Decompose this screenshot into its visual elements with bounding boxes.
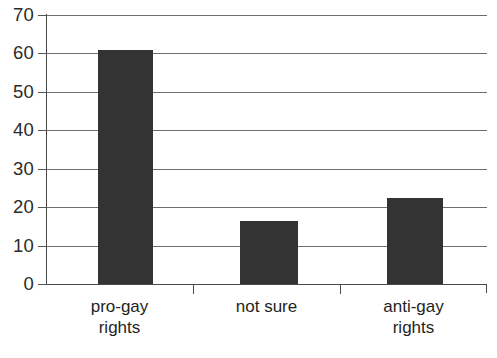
x-category-label-line-1: not sure <box>193 296 340 317</box>
x-category-label-line-2: rights <box>46 317 193 338</box>
x-category-label-line-2: rights <box>340 317 487 338</box>
y-tick-label-30: 30 <box>0 160 34 179</box>
y-tick-label-10: 10 <box>0 237 34 256</box>
y-tick-mark-0 <box>38 284 47 285</box>
y-tick-mark-50 <box>38 92 47 93</box>
bar-chart: 70 60 50 40 30 20 10 0 pro-gay rights no… <box>0 0 497 358</box>
y-tick-label-0: 0 <box>0 275 34 294</box>
y-tick-label-60: 60 <box>0 44 34 63</box>
y-tick-label-40: 40 <box>0 121 34 140</box>
x-tick-mark-1 <box>193 285 194 294</box>
gridline-70 <box>46 15 487 16</box>
y-tick-mark-10 <box>38 246 47 247</box>
x-axis-right-tick <box>486 284 487 293</box>
y-tick-mark-60 <box>38 53 47 54</box>
x-category-label-line-1: anti-gay <box>340 296 487 317</box>
y-tick-mark-70 <box>38 15 47 16</box>
x-tick-mark-2 <box>340 285 341 294</box>
bar-pro-gay-rights <box>98 50 153 284</box>
x-category-label-not-sure: not sure <box>193 296 340 317</box>
bar-not-sure <box>240 221 298 284</box>
x-axis-line <box>46 284 487 285</box>
bar-anti-gay-rights <box>387 198 443 284</box>
y-tick-label-50: 50 <box>0 83 34 102</box>
x-category-label-anti-gay-rights: anti-gay rights <box>340 296 487 338</box>
y-axis-line <box>46 14 47 285</box>
y-tick-label-20: 20 <box>0 198 34 217</box>
y-tick-mark-40 <box>38 130 47 131</box>
y-tick-mark-20 <box>38 207 47 208</box>
y-tick-label-70: 70 <box>0 6 34 25</box>
x-category-label-pro-gay-rights: pro-gay rights <box>46 296 193 338</box>
y-tick-mark-30 <box>38 169 47 170</box>
x-category-label-line-1: pro-gay <box>46 296 193 317</box>
